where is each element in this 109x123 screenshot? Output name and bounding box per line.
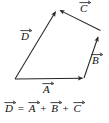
vector-arrow-a xyxy=(15,78,83,79)
vector-label-d: D xyxy=(21,31,29,42)
equation-term-1: A xyxy=(29,103,36,114)
equation-term-2: B xyxy=(51,103,58,114)
equation-term-1-text: A xyxy=(29,102,36,114)
equation-term-3: C xyxy=(74,103,81,114)
vector-label-d-text: D xyxy=(21,30,29,42)
equation-plus-2: + xyxy=(61,103,71,114)
equation-lhs: D xyxy=(5,103,13,114)
vector-arrow-d xyxy=(15,12,56,79)
equation-plus-1: + xyxy=(38,103,48,114)
equation-lhs-text: D xyxy=(5,102,13,114)
equation-equals-sign: = xyxy=(16,103,26,114)
vector-addition-figure: D C B A xyxy=(0,0,109,123)
vector-diagram xyxy=(0,0,109,100)
vector-label-b-text: B xyxy=(92,54,99,66)
vector-label-a-text: A xyxy=(43,83,50,95)
vector-equation: D = A + B + C xyxy=(5,103,81,114)
vector-label-a: A xyxy=(43,84,50,95)
vector-label-c-text: C xyxy=(80,2,87,14)
vector-label-c: C xyxy=(80,3,87,14)
vector-label-b: B xyxy=(92,55,99,66)
equation-term-3-text: C xyxy=(74,102,81,114)
equation-term-2-text: B xyxy=(51,102,58,114)
